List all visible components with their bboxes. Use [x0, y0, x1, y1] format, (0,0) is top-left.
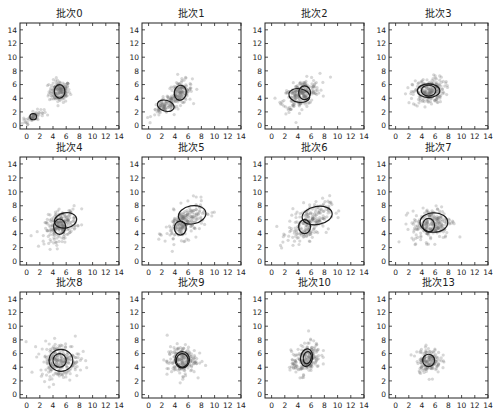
y-tick-label: 14 [376, 295, 386, 304]
panel-title: 批次7 [425, 141, 451, 153]
y-tick-label: 6 [134, 215, 139, 224]
y-tick-label: 12 [129, 174, 139, 183]
y-tick-label: 8 [12, 201, 17, 210]
y-tick-label: 8 [12, 336, 17, 345]
scatter-panel-3: 批次30246810121402468101214 [376, 7, 493, 141]
y-tick-label: 8 [381, 67, 386, 76]
y-tick-label: 8 [381, 336, 386, 345]
scatter-panel-11: 批次130246810121402468101214 [376, 276, 493, 410]
x-tick-label: 8 [446, 401, 451, 410]
x-tick-label: 4 [420, 268, 425, 277]
x-tick-label: 12 [101, 268, 111, 277]
x-tick-label: 12 [346, 268, 356, 277]
y-tick-label: 12 [252, 39, 262, 48]
panel-title: 批次6 [301, 141, 327, 153]
y-tick-label: 6 [12, 80, 17, 89]
y-tick-label: 4 [134, 229, 139, 238]
x-tick-label: 4 [51, 132, 56, 141]
y-tick-label: 4 [381, 229, 386, 238]
scatter-points [273, 72, 332, 124]
x-tick-label: 12 [346, 132, 356, 141]
x-tick-label: 2 [159, 401, 164, 410]
x-tick-label: 6 [433, 268, 438, 277]
x-tick-label: 10 [210, 132, 220, 141]
y-tick-label: 12 [129, 39, 139, 48]
x-tick-label: 8 [77, 401, 82, 410]
y-tick-label: 8 [134, 67, 139, 76]
x-tick-label: 6 [186, 132, 191, 141]
y-tick-label: 2 [257, 108, 262, 117]
y-tick-label: 8 [257, 336, 262, 345]
x-tick-label: 12 [223, 268, 233, 277]
y-tick-label: 4 [257, 229, 262, 238]
x-tick-label: 6 [64, 132, 69, 141]
y-tick-label: 2 [134, 108, 139, 117]
x-tick-label: 0 [269, 132, 274, 141]
y-tick-label: 0 [381, 257, 386, 266]
panel-title: 批次0 [56, 7, 82, 19]
y-tick-label: 8 [257, 201, 262, 210]
scatter-panel-0: 批次00246810121402468101214 [7, 7, 124, 141]
x-tick-label: 2 [159, 132, 164, 141]
x-tick-label: 6 [186, 401, 191, 410]
x-tick-label: 14 [114, 132, 124, 141]
y-tick-label: 0 [257, 257, 262, 266]
x-tick-label: 14 [114, 401, 124, 410]
x-tick-label: 10 [210, 401, 220, 410]
y-tick-label: 6 [381, 215, 386, 224]
x-tick-label: 8 [77, 268, 82, 277]
scatter-panel-9: 批次90246810121402468101214 [129, 276, 246, 410]
scatter-panel-10: 批次100246810121402468101214 [252, 276, 369, 410]
x-tick-label: 10 [88, 268, 98, 277]
x-tick-label: 6 [309, 132, 314, 141]
y-tick-label: 10 [252, 322, 262, 331]
x-tick-label: 10 [457, 132, 467, 141]
x-tick-label: 4 [173, 268, 178, 277]
x-tick-label: 8 [322, 132, 327, 141]
y-tick-label: 4 [257, 94, 262, 103]
y-tick-label: 0 [134, 257, 139, 266]
x-tick-label: 0 [24, 132, 29, 141]
x-tick-label: 0 [146, 268, 151, 277]
axes-frame [142, 292, 241, 398]
y-tick-label: 14 [252, 295, 262, 304]
x-tick-label: 12 [470, 268, 480, 277]
x-tick-label: 4 [420, 132, 425, 141]
axes-frame [20, 292, 119, 398]
scatter-panel-4: 批次40246810121402468101214 [7, 141, 124, 277]
x-tick-label: 10 [210, 268, 220, 277]
panel-title: 批次2 [301, 7, 327, 19]
scatter-points [25, 335, 89, 389]
y-tick-label: 4 [12, 229, 17, 238]
x-tick-label: 4 [296, 268, 301, 277]
scatter-points [275, 194, 340, 249]
x-tick-label: 12 [470, 132, 480, 141]
x-tick-label: 2 [406, 401, 411, 410]
y-tick-label: 12 [252, 308, 262, 317]
x-tick-label: 0 [393, 401, 398, 410]
y-tick-label: 6 [12, 349, 17, 358]
y-tick-label: 10 [376, 53, 386, 62]
y-tick-label: 4 [12, 94, 17, 103]
x-tick-label: 8 [446, 132, 451, 141]
y-tick-label: 2 [12, 377, 17, 386]
y-tick-label: 12 [376, 39, 386, 48]
x-tick-label: 4 [51, 401, 56, 410]
y-tick-label: 14 [129, 26, 139, 35]
x-tick-label: 10 [457, 401, 467, 410]
scatter-points [410, 344, 446, 381]
x-tick-label: 6 [64, 401, 69, 410]
x-tick-label: 2 [37, 401, 42, 410]
y-tick-label: 4 [381, 363, 386, 372]
scatter-points [146, 73, 198, 125]
x-tick-label: 2 [282, 401, 287, 410]
x-tick-label: 6 [309, 268, 314, 277]
x-tick-label: 12 [223, 401, 233, 410]
scatter-points [288, 329, 325, 379]
x-tick-label: 0 [269, 401, 274, 410]
x-tick-label: 10 [333, 401, 343, 410]
scatter-panel-1: 批次10246810121402468101214 [129, 7, 246, 141]
x-tick-label: 0 [269, 268, 274, 277]
y-tick-label: 6 [257, 80, 262, 89]
x-tick-label: 14 [359, 132, 369, 141]
